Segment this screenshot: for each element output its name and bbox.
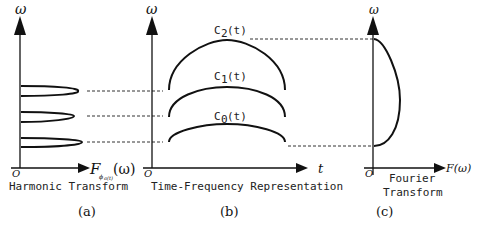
b-caption: Time-Frequency Representation xyxy=(151,180,343,193)
a-y-axis-label: ω xyxy=(15,1,27,17)
a-caption: Harmonic Transform xyxy=(9,180,129,193)
svg-text:(t): (t) xyxy=(227,110,247,123)
diagram-canvas: ω F ϕ a(t) (ω) O Harmonic Transform (a) … xyxy=(0,0,478,228)
c-origin-label: O xyxy=(365,168,373,179)
b-label-c2: C 2 (t) xyxy=(214,24,247,40)
b-tag: (b) xyxy=(220,204,238,219)
a-peak-1 xyxy=(21,112,74,122)
a-x-arrow-icon xyxy=(78,163,90,173)
c-tag: (c) xyxy=(376,204,393,219)
a-tag: (a) xyxy=(78,204,96,219)
panel-a-harmonic-transform: ω F ϕ a(t) (ω) O Harmonic Transform (a) xyxy=(9,1,135,219)
b-origin-label: O xyxy=(144,168,152,179)
b-y-arrow-icon xyxy=(146,16,158,35)
b-curve-c0 xyxy=(169,124,285,142)
a-x-axis-arg: (ω) xyxy=(113,161,135,177)
c-caption-line1: Fourier xyxy=(389,172,436,185)
svg-text:(t): (t) xyxy=(227,70,247,83)
c-y-arrow-icon xyxy=(367,16,379,35)
svg-text:C: C xyxy=(214,110,221,123)
c-caption-line2: Transform xyxy=(383,186,443,199)
b-label-c1: C 1 (t) xyxy=(214,70,247,86)
a-y-arrow-icon xyxy=(14,16,26,35)
a-peak-0 xyxy=(21,138,82,147)
panel-c-fourier-transform: ω F(ω) O Fourier Transform (c) xyxy=(364,3,471,219)
b-x-axis-label: t xyxy=(318,161,324,176)
c-x-arrow-icon xyxy=(434,163,446,173)
c-y-axis-label: ω xyxy=(369,3,379,17)
c-x-axis-label: F(ω) xyxy=(445,162,471,175)
svg-text:C: C xyxy=(214,70,221,83)
panel-b-time-frequency: ω t O C 2 (t) C 1 (t) C 0 (t) Time-Frequ… xyxy=(143,1,343,219)
svg-text:(t): (t) xyxy=(227,24,247,37)
b-y-axis-label: ω xyxy=(146,1,158,17)
c-spectrum-curve xyxy=(374,39,400,146)
a-peak-2 xyxy=(21,86,78,96)
a-origin-label: O xyxy=(12,168,20,179)
svg-text:C: C xyxy=(214,24,221,37)
b-x-arrow-icon xyxy=(296,163,308,173)
